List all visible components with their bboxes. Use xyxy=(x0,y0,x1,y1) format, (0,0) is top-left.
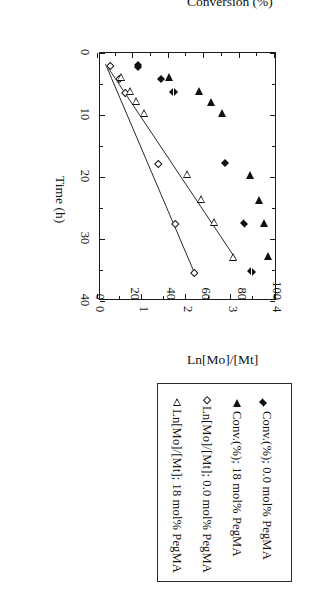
data-point-open-triangle xyxy=(210,218,218,226)
data-point-open-diamond xyxy=(171,221,177,227)
data-point-open-triangle xyxy=(183,170,191,178)
data-point-filled-triangle xyxy=(255,196,263,204)
tick-mark xyxy=(100,53,105,54)
x-tick-label-time: 20 xyxy=(77,159,92,193)
legend-marker-filled-triangle-icon xyxy=(233,394,241,411)
legend-label: Ln[Mo]/[Mt]; 0.0 mol% PegMA xyxy=(200,406,215,573)
y-tick-label-ln: 1 xyxy=(136,306,151,346)
tick-mark xyxy=(252,296,253,299)
legend-item-3: Ln[Mo]/[Mt]; 18 mol% PegMA xyxy=(162,394,192,573)
data-point-open-triangle xyxy=(140,109,148,117)
x-tick-label-time: 40 xyxy=(77,283,92,317)
data-point-filled-triangle xyxy=(207,98,215,106)
data-point-open-triangle xyxy=(126,87,134,95)
tick-mark xyxy=(272,208,275,209)
tick-mark xyxy=(239,53,240,58)
tick-mark xyxy=(270,177,275,178)
data-point-filled-diamond xyxy=(244,220,252,228)
y-tick-label-ln: 2 xyxy=(180,306,195,346)
trend-line xyxy=(106,64,196,275)
legend-item-1: Conv.(%); 18 mol% PegMA xyxy=(222,394,252,573)
data-point-filled-triangle xyxy=(195,87,203,95)
y-tick-label-conversion: 40 xyxy=(162,260,177,300)
y-tick-label-conversion: 100 xyxy=(269,260,284,300)
data-point-filled-diamond xyxy=(138,63,146,71)
y-axis-title-ln: Ln[Mo]/[Mt] xyxy=(187,352,258,368)
legend-marker-open-diamond-icon xyxy=(204,394,210,406)
data-point-filled-diamond xyxy=(174,88,182,96)
legend-marker-filled-diamond-icon xyxy=(263,394,271,411)
tick-mark xyxy=(203,53,204,58)
tick-mark xyxy=(230,294,231,299)
tick-mark xyxy=(100,177,105,178)
tick-mark xyxy=(100,208,103,209)
tick-mark xyxy=(272,146,275,147)
tick-mark xyxy=(270,115,275,116)
data-point-open-triangle xyxy=(132,97,140,105)
tick-mark xyxy=(221,53,222,56)
y-tick-label-ln: 4 xyxy=(269,306,284,346)
data-point-open-diamond xyxy=(107,63,113,69)
tick-mark xyxy=(115,53,116,56)
tick-mark xyxy=(132,53,133,58)
data-point-open-diamond xyxy=(191,270,197,276)
y-tick-label-conversion: 60 xyxy=(198,260,213,300)
legend-item-2: Ln[Mo]/[Mt]; 0.0 mol% PegMA xyxy=(192,394,222,573)
tick-mark xyxy=(100,301,105,302)
legend-label: Ln[Mo]/[Mt]; 18 mol% PegMA xyxy=(170,409,185,573)
data-point-filled-diamond xyxy=(252,268,260,276)
x-axis-title-time: Time (h) xyxy=(52,176,68,223)
data-point-open-diamond xyxy=(155,161,161,167)
y-axis-title-conversion: Conversion (%) xyxy=(187,0,273,10)
data-point-filled-diamond xyxy=(225,159,233,167)
tick-mark xyxy=(119,296,120,299)
tick-mark xyxy=(97,53,98,58)
x-tick-label-time: 0 xyxy=(77,35,92,69)
tick-mark xyxy=(270,239,275,240)
chart-figure: 02040608010001234010203040 Conversion (%… xyxy=(0,0,314,606)
data-point-open-triangle xyxy=(197,195,205,203)
x-tick-label-time: 30 xyxy=(77,221,92,255)
legend-box: Conv.(%); 0.0 mol% PegMAConv.(%); 18 mol… xyxy=(157,383,292,582)
tick-mark xyxy=(100,84,103,85)
tick-mark xyxy=(186,294,187,299)
legend-label: Conv.(%); 18 mol% PegMA xyxy=(230,411,245,557)
tick-mark xyxy=(274,53,275,58)
legend-item-0: Conv.(%); 0.0 mol% PegMA xyxy=(252,394,282,573)
y-tick-label-ln: 3 xyxy=(224,306,239,346)
tick-mark xyxy=(100,115,105,116)
tick-mark xyxy=(168,53,169,58)
legend-label: Conv.(%); 0.0 mol% PegMA xyxy=(260,411,275,560)
data-point-open-triangle xyxy=(117,73,125,81)
tick-mark xyxy=(256,53,257,56)
data-point-filled-triangle xyxy=(260,219,268,227)
data-point-filled-triangle xyxy=(165,73,173,81)
data-point-filled-triangle xyxy=(218,109,226,117)
plot-area xyxy=(99,52,276,300)
x-tick-label-time: 10 xyxy=(77,97,92,131)
tick-mark xyxy=(270,301,275,302)
legend-marker-open-triangle-icon xyxy=(173,394,181,409)
y-tick-label-ln: 0 xyxy=(92,306,107,346)
tick-mark xyxy=(150,53,151,56)
data-point-filled-triangle xyxy=(246,171,254,179)
y-tick-label-conversion: 20 xyxy=(127,260,142,300)
y-tick-label-conversion: 80 xyxy=(233,260,248,300)
tick-mark xyxy=(100,239,105,240)
tick-mark xyxy=(186,53,187,56)
tick-mark xyxy=(100,146,103,147)
y-tick-label-conversion: 0 xyxy=(92,260,107,300)
tick-mark xyxy=(272,84,275,85)
